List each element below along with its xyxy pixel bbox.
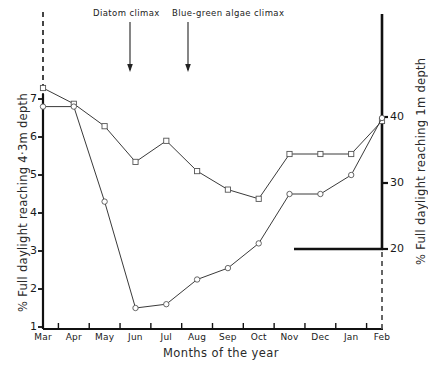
series-43m-depth-marker	[40, 104, 45, 109]
series-43m-depth-marker	[164, 302, 169, 307]
right-axis-tick-label: 40	[390, 110, 404, 123]
annotation-label-diatom-climax: Diatom climax	[93, 8, 160, 18]
series-1m-depth-marker	[164, 138, 169, 143]
series-43m-depth-marker	[349, 172, 354, 177]
x-axis-month-label-jul: Jul	[150, 332, 182, 342]
left-axis-tick-label: 4	[24, 206, 37, 219]
series-43m-depth-marker	[256, 241, 261, 246]
series-43m-depth-marker	[194, 277, 199, 282]
series-43m-depth-marker	[133, 305, 138, 310]
x-axis-month-label-apr: Apr	[58, 332, 90, 342]
x-axis-month-label-may: May	[89, 332, 121, 342]
series-43m-depth-line	[43, 107, 382, 308]
x-axis-month-label-feb: Feb	[366, 332, 398, 342]
x-axis-month-label-jan: Jan	[335, 332, 367, 342]
left-axis-tick-label: 7	[24, 92, 37, 105]
left-axis-tick-label: 2	[24, 282, 37, 295]
series-43m-depth-marker	[287, 191, 292, 196]
series-43m-depth-marker	[102, 199, 107, 204]
series-43m-depth-marker	[225, 265, 230, 270]
series-1m-depth-marker	[225, 187, 230, 192]
x-axis-month-label-aug: Aug	[181, 332, 213, 342]
data-series-layer	[40, 85, 384, 310]
series-1m-depth-marker	[287, 151, 292, 156]
left-axis-tick-label: 3	[24, 244, 37, 257]
series-1m-depth-marker	[349, 151, 354, 156]
left-axis-title: % Full daylight reaching 4·3m depth	[16, 93, 30, 312]
x-axis-title: Months of the year	[163, 346, 279, 360]
series-1m-depth-marker	[133, 159, 138, 164]
axes-layer	[38, 12, 388, 329]
right-axis-tick-label: 30	[390, 176, 404, 189]
series-43m-depth-marker	[379, 115, 384, 120]
annotation-arrows-layer	[127, 22, 191, 72]
series-1m-depth-marker	[102, 124, 107, 129]
series-1m-depth-marker	[256, 196, 261, 201]
x-axis-month-label-dec: Dec	[304, 332, 336, 342]
x-axis-month-label-sep: Sep	[212, 332, 244, 342]
x-axis-month-label-nov: Nov	[274, 332, 306, 342]
right-axis-title: % Full daylight reaching 1m depth	[414, 58, 428, 265]
annotation-arrow-blue-green-algae-climax-head	[185, 64, 191, 72]
annotation-label-blue-green-algae-climax: Blue-green algae climax	[172, 8, 284, 18]
series-43m-depth-marker	[318, 191, 323, 196]
x-axis-month-label-mar: Mar	[27, 332, 59, 342]
series-1m-depth-marker	[40, 85, 45, 90]
series-43m-depth-marker	[71, 104, 76, 109]
right-axis-tick-label: 20	[390, 242, 404, 255]
series-1m-depth-marker	[195, 169, 200, 174]
chart-canvas	[0, 0, 428, 372]
left-axis-tick-label: 5	[24, 168, 37, 181]
left-axis-tick-label: 6	[24, 130, 37, 143]
figure-root: % Full daylight reaching 4·3m depth % Fu…	[0, 0, 428, 372]
x-axis-month-label-jun: Jun	[119, 332, 151, 342]
series-1m-depth-marker	[318, 151, 323, 156]
x-axis-month-label-oct: Oct	[243, 332, 275, 342]
series-1m-depth-line	[43, 88, 382, 199]
annotation-arrow-diatom-climax-head	[127, 64, 133, 72]
